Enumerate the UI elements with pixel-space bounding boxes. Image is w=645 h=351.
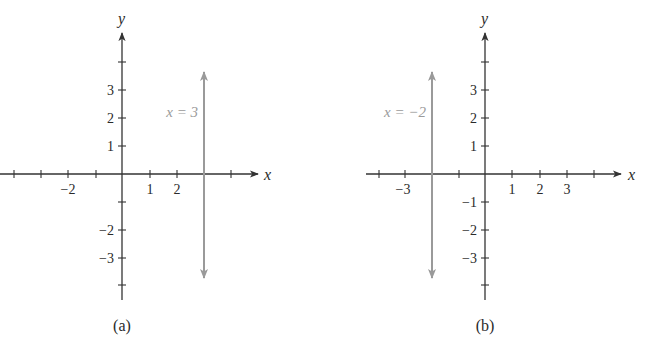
x-tick-label: 2 xyxy=(174,182,181,197)
y-tick-label: −3 xyxy=(99,251,114,266)
panel-a: −2 1 2 3 2 1 −2 −3 x y x = 3 (a) xyxy=(0,10,271,335)
x-axis-label: x xyxy=(263,166,271,183)
line-equation-label: x = 3 xyxy=(165,104,198,120)
y-tick-label: 1 xyxy=(107,139,114,154)
panel-caption: (a) xyxy=(113,317,131,335)
panel-caption: (b) xyxy=(476,317,495,335)
y-tick-label: −3 xyxy=(462,251,477,266)
figure: −2 1 2 3 2 1 −2 −3 x y x = 3 (a) xyxy=(0,0,645,351)
panel-b: −3 1 2 3 3 2 1 −1 −2 −3 x y x = −2 (b) xyxy=(366,10,635,335)
x-tick-label: −3 xyxy=(396,182,411,197)
x-tick-label: 2 xyxy=(537,182,544,197)
line-equation-label: x = −2 xyxy=(383,104,426,120)
y-tick-label: −2 xyxy=(99,223,114,238)
y-tick-label: −1 xyxy=(462,195,477,210)
y-tick-label: 3 xyxy=(107,83,114,98)
y-tick-label: 3 xyxy=(470,83,477,98)
x-tick-label: 1 xyxy=(147,182,154,197)
x-tick-label: 1 xyxy=(509,182,516,197)
x-tick-label: −2 xyxy=(61,182,76,197)
y-tick-label: 2 xyxy=(470,111,477,126)
y-axis-label: y xyxy=(116,10,126,28)
y-tick-label: 1 xyxy=(470,139,477,154)
x-tick-label: 3 xyxy=(564,182,571,197)
x-axis-label: x xyxy=(627,166,635,183)
y-axis-label: y xyxy=(479,10,489,28)
y-tick-label: 2 xyxy=(107,111,114,126)
y-tick-label: −2 xyxy=(462,223,477,238)
